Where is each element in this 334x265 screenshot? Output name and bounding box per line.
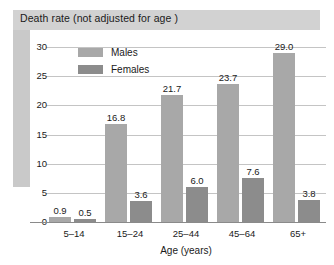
bar-group: 23.77.6 [214, 42, 270, 222]
bar-females: 7.6 [242, 178, 264, 222]
bar-value-label: 7.6 [246, 166, 259, 177]
bar-males: 21.7 [161, 95, 183, 222]
bar-males: 29.0 [273, 53, 295, 222]
bar-females: 0.5 [74, 219, 96, 222]
y-axis-tick-label: 20 [31, 99, 47, 110]
bar-females: 6.0 [186, 187, 208, 222]
x-axis-tick-label: 15–24 [102, 228, 158, 239]
y-axis-tick-label: 15 [31, 129, 47, 140]
legend-swatch-males-icon [78, 48, 103, 57]
bar-males: 0.9 [49, 217, 71, 222]
x-axis-tick-label: 65+ [270, 228, 326, 239]
x-axis-tick-label: 45–64 [214, 228, 270, 239]
bar-females: 3.8 [298, 200, 320, 222]
legend-swatch-females-icon [78, 65, 103, 74]
left-decorative-band [13, 30, 30, 187]
bar-value-label: 21.7 [163, 83, 182, 94]
chart-legend: Males Females [78, 45, 149, 79]
y-axis-tick-label: 10 [31, 158, 47, 169]
bar-value-label: 29.0 [275, 41, 294, 52]
x-axis-tick-label: 5–14 [46, 228, 102, 239]
bar-value-label: 0.5 [78, 207, 91, 218]
bar-value-label: 23.7 [219, 72, 238, 83]
legend-label-males: Males [111, 47, 138, 58]
bar-value-label: 3.8 [302, 188, 315, 199]
bar-groups: 0.90.516.83.621.76.023.77.629.03.8 [46, 0, 326, 265]
bar-females: 3.6 [130, 201, 152, 222]
legend-item-females: Females [78, 62, 149, 76]
bar-group: 21.76.0 [158, 42, 214, 222]
bar-males: 23.7 [217, 84, 239, 222]
legend-item-males: Males [78, 45, 149, 59]
bar-males: 16.8 [105, 124, 127, 222]
x-axis-tick-label: 25–44 [158, 228, 214, 239]
bar-group: 29.03.8 [270, 42, 326, 222]
y-axis-tick-label: 5 [31, 187, 47, 198]
legend-label-females: Females [111, 64, 149, 75]
chart-figure: Death rate (not adjusted for age ) 05101… [0, 0, 334, 265]
bar-value-label: 0.9 [53, 205, 66, 216]
bar-value-label: 3.6 [134, 189, 147, 200]
y-axis-tick-label: 30 [31, 41, 47, 52]
bar-value-label: 16.8 [107, 112, 126, 123]
x-axis-title: Age (years) [46, 245, 326, 256]
y-axis-tick-label: 25 [31, 70, 47, 81]
bar-value-label: 6.0 [190, 175, 203, 186]
